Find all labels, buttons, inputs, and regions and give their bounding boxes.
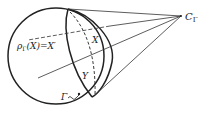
region-x-label: X — [91, 35, 99, 45]
sphere-projection-diagram: CΓ ρΓ(X)=X′ X Y Γ — [0, 0, 210, 119]
cone-line-y — [38, 16, 181, 78]
apex-label: CΓ — [185, 11, 198, 24]
curve-label: Γ — [60, 92, 68, 102]
apex-point — [180, 15, 182, 17]
curve-pointer-tip — [78, 93, 80, 95]
gamma-curve-back — [66, 9, 92, 97]
cone-line-bottom — [95, 16, 181, 95]
projection-label: ρΓ(X)=X′ — [16, 41, 56, 52]
region-y-label: Y — [82, 71, 89, 81]
